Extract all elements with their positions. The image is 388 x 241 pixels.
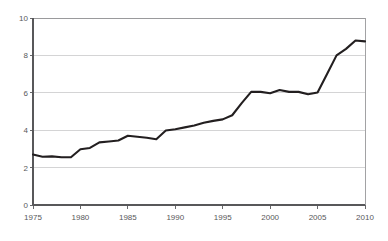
x-tick-label-1985: 1985 <box>119 213 137 222</box>
chart-container: 0246810 19751980198519901995200020052010 <box>0 0 388 241</box>
x-tick-label-1975: 1975 <box>24 213 42 222</box>
y-tick-label-8: 8 <box>24 51 29 60</box>
x-tick-label-2000: 2000 <box>261 213 279 222</box>
y-tick-label-0: 0 <box>24 201 29 210</box>
x-tick-label-1995: 1995 <box>214 213 232 222</box>
x-tick-label-2010: 2010 <box>356 213 374 222</box>
x-tick-label-1980: 1980 <box>72 213 90 222</box>
x-tick-label-1990: 1990 <box>166 213 184 222</box>
x-tick-label-2005: 2005 <box>309 213 327 222</box>
y-tick-label-6: 6 <box>24 89 29 98</box>
y-tick-label-4: 4 <box>24 126 29 135</box>
line-chart: 0246810 19751980198519901995200020052010 <box>0 0 388 241</box>
y-tick-label-2: 2 <box>24 164 29 173</box>
y-tick-label-10: 10 <box>19 14 28 23</box>
